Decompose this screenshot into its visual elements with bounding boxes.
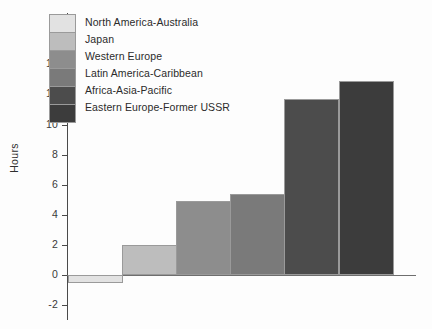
legend: North America-AustraliaJapanWestern Euro… xyxy=(49,14,230,123)
legend-swatch xyxy=(50,50,75,68)
bar xyxy=(122,245,177,275)
bar xyxy=(284,99,339,275)
bar xyxy=(176,201,231,275)
legend-label: Western Europe xyxy=(85,48,230,65)
legend-swatch xyxy=(50,15,75,32)
bar xyxy=(68,275,123,283)
legend-label: North America-Australia xyxy=(85,14,230,31)
bar xyxy=(339,81,394,275)
bar-chart: 14121086420-2 Hours North America-Austra… xyxy=(0,0,432,329)
bar xyxy=(230,194,285,275)
legend-swatch xyxy=(50,86,75,104)
legend-label: Latin America-Caribbean xyxy=(85,65,230,82)
legend-label: Japan xyxy=(85,31,230,48)
legend-label: Africa-Asia-Pacific xyxy=(85,82,230,99)
legend-label: Eastern Europe-Former USSR xyxy=(85,99,230,116)
legend-swatch xyxy=(50,104,75,122)
legend-swatch-column xyxy=(49,14,76,123)
legend-swatch xyxy=(50,32,75,50)
legend-swatch xyxy=(50,68,75,86)
legend-label-column: North America-AustraliaJapanWestern Euro… xyxy=(85,14,230,123)
